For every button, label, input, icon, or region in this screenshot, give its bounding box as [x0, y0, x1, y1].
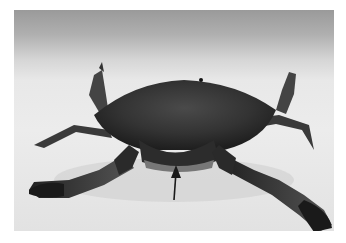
arrow-icon — [14, 10, 334, 231]
crab-photo — [14, 10, 334, 231]
